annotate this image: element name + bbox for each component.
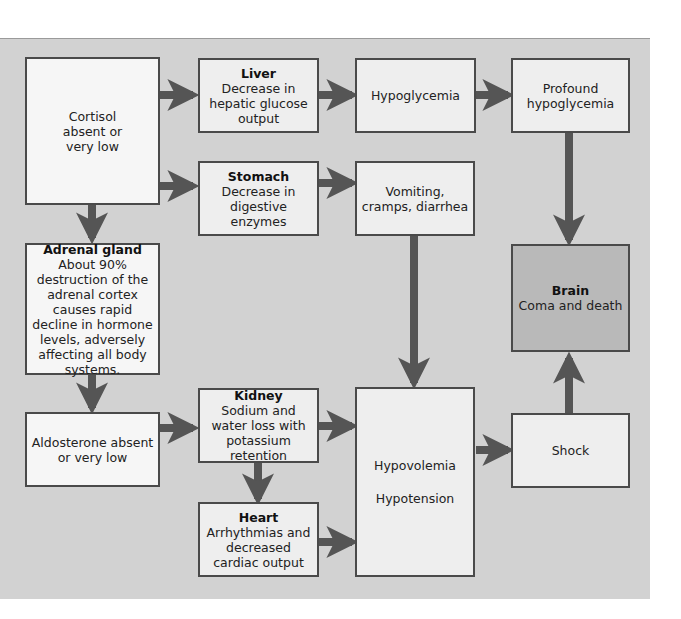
heart-text: Arrhythmias and decreased cardiac output: [204, 525, 313, 570]
kidney-title: Kidney: [234, 388, 282, 403]
aldosterone-box: Aldosterone absent or very low: [25, 412, 160, 487]
stomach-text: Decrease in digestive enzymes: [204, 184, 314, 229]
brain-title: Brain: [552, 283, 589, 298]
brain-box: Brain Coma and death: [511, 244, 630, 352]
brain-text: Coma and death: [519, 298, 623, 313]
aldosterone-text: Aldosterone absent or very low: [30, 435, 155, 465]
hypovolemia-hypotension-box: Hypovolemia Hypotension: [355, 387, 475, 577]
heart-box: Heart Arrhythmias and decreased cardiac …: [198, 502, 319, 577]
stomach-box: Stomach Decrease in digestive enzymes: [198, 161, 319, 236]
hypoglycemia-box: Hypoglycemia: [355, 58, 476, 133]
hypovolemia-text: Hypovolemia: [374, 458, 456, 473]
kidney-text: Sodium and water loss with potassium ret…: [204, 403, 313, 463]
liver-box: Liver Decrease in hepatic glucose output: [198, 58, 319, 133]
shock-text: Shock: [552, 443, 590, 458]
adrenal-gland-title: Adrenal gland: [43, 242, 142, 257]
hypotension-text: Hypotension: [376, 491, 454, 506]
liver-text: Decrease in hepatic glucose output: [204, 81, 313, 126]
cortisol-text: Cortisol absent or very low: [48, 109, 138, 154]
adrenal-gland-text: About 90% destruction of the adrenal cor…: [31, 257, 154, 377]
kidney-box: Kidney Sodium and water loss with potass…: [198, 388, 319, 463]
profound-hypoglycemia-box: Profound hypoglycemia: [511, 58, 630, 133]
vomiting-box: Vomiting, cramps, diarrhea: [355, 161, 475, 236]
heart-title: Heart: [239, 510, 279, 525]
cortisol-box: Cortisol absent or very low: [25, 57, 160, 205]
adrenal-gland-box: Adrenal gland About 90% destruction of t…: [25, 243, 160, 375]
stomach-title: Stomach: [228, 169, 289, 184]
shock-box: Shock: [511, 413, 630, 488]
profound-hypoglycemia-text: Profound hypoglycemia: [526, 81, 616, 111]
vomiting-text: Vomiting, cramps, diarrhea: [360, 184, 470, 214]
hypoglycemia-text: Hypoglycemia: [371, 88, 460, 103]
liver-title: Liver: [241, 66, 276, 81]
